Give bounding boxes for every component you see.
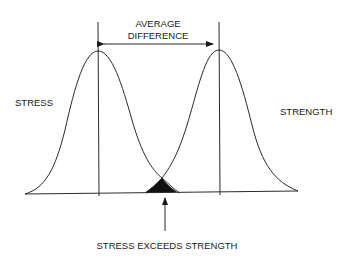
stress-strength-interference-diagram: AVERAGE DIFFERENCE STRESS STRENGTH STRES… <box>0 0 350 264</box>
stress-exceeds-strength-label: STRESS EXCEEDS STRENGTH <box>97 240 238 251</box>
overlap-region <box>145 178 177 193</box>
stress-distribution-curve <box>25 51 180 194</box>
stress-mean-line <box>98 22 99 196</box>
average-difference-label-line2: DIFFERENCE <box>128 30 189 41</box>
average-difference-label-line1: AVERAGE <box>135 18 180 29</box>
strength-mean-line <box>219 22 220 195</box>
stress-label: STRESS <box>15 97 53 108</box>
strength-label: STRENGTH <box>280 106 332 117</box>
strength-distribution-curve <box>145 50 298 193</box>
